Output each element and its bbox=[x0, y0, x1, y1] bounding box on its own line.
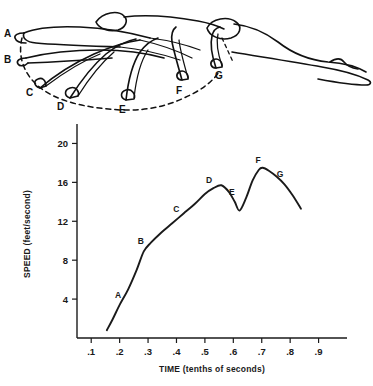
curve-point-label-g: G bbox=[277, 169, 284, 179]
curve-point-label-a: A bbox=[115, 290, 121, 300]
figure-label-g: G bbox=[215, 70, 223, 81]
swimmer-figure-panel: A B C D E F G bbox=[0, 0, 373, 120]
hand-e-outline bbox=[122, 90, 135, 100]
figure-label-b: B bbox=[4, 54, 11, 65]
y-tick-label: 8 bbox=[63, 255, 68, 266]
x-axis-ticks bbox=[91, 338, 318, 343]
y-tick-label: 12 bbox=[57, 216, 68, 227]
curve-point-label-e: E bbox=[229, 187, 235, 197]
curve-point-labels: ABCDEFG bbox=[115, 155, 284, 300]
y-tick-label: 16 bbox=[57, 177, 68, 188]
arm-stroke-g bbox=[211, 27, 220, 68]
speed-time-chart-panel: 48121620 .1.2.3.4.5.6.7.8.9 ABCDEFG TIME… bbox=[0, 118, 373, 386]
y-tick-label: 4 bbox=[63, 294, 69, 305]
hand-g-outline bbox=[211, 59, 222, 68]
speed-time-chart-svg: 48121620 .1.2.3.4.5.6.7.8.9 ABCDEFG TIME… bbox=[0, 118, 373, 386]
figure-label-d: D bbox=[57, 101, 64, 112]
curve-point-label-c: C bbox=[173, 204, 179, 214]
curve-point-label-d: D bbox=[206, 175, 212, 185]
arm-stroke-a-lower bbox=[24, 33, 121, 47]
x-tick-label: .4 bbox=[173, 346, 182, 357]
x-tick-label: .1 bbox=[87, 346, 96, 357]
x-axis-title: TIME (tenths of seconds) bbox=[159, 364, 265, 374]
figure-label-c: C bbox=[26, 87, 33, 98]
x-tick-label: .8 bbox=[286, 346, 294, 357]
swimmer-torso-top bbox=[124, 16, 224, 29]
hand-c-outline bbox=[35, 78, 46, 88]
swimmer-leg-lower bbox=[232, 52, 370, 85]
y-axis-tick-labels: 48121620 bbox=[57, 138, 68, 305]
curve-point-label-b: B bbox=[138, 236, 144, 246]
x-tick-label: .7 bbox=[258, 346, 266, 357]
hand-f-outline bbox=[177, 71, 188, 80]
hand-d-outline bbox=[66, 88, 79, 98]
curve-point-label-f: F bbox=[256, 155, 261, 165]
speed-curve bbox=[107, 168, 301, 331]
figure-label-e: E bbox=[119, 104, 126, 115]
x-axis-tick-labels: .1.2.3.4.5.6.7.8.9 bbox=[87, 346, 322, 357]
x-tick-label: .3 bbox=[144, 346, 152, 357]
swimmer-figure-svg: A B C D E F G bbox=[0, 0, 373, 120]
y-axis-ticks bbox=[72, 143, 77, 299]
shoulder-axis-dash bbox=[222, 38, 233, 62]
x-tick-label: .6 bbox=[229, 346, 237, 357]
y-tick-label: 20 bbox=[57, 138, 68, 149]
figure-label-f: F bbox=[176, 85, 182, 96]
x-tick-label: .2 bbox=[116, 346, 124, 357]
y-axis-title: SPEED (feet/second) bbox=[22, 190, 32, 278]
x-tick-label: .5 bbox=[201, 346, 210, 357]
hand-path-trace bbox=[21, 38, 219, 110]
figure-label-a: A bbox=[4, 28, 11, 39]
arm-stroke-a bbox=[24, 27, 150, 38]
x-tick-label: .9 bbox=[315, 346, 323, 357]
